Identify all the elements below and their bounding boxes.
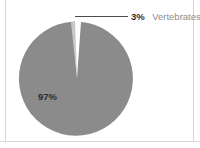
pie-slice-invertebrates[interactable] — [19, 22, 133, 136]
vertebrates-label-group: 3% Vertebrates — [131, 6, 200, 23]
pie-chart-canvas: 3% Vertebrates 97% Invertebrates — [0, 0, 200, 148]
invertebrates-category-label: Invertebrates — [64, 91, 120, 102]
pie-chart-figure: 3% Vertebrates 97% Invertebrates — [0, 0, 200, 148]
vertebrates-category-label: Vertebrates — [152, 11, 200, 22]
vertebrates-value-label: 3% — [131, 11, 145, 22]
invertebrates-value-label: 97% — [38, 91, 58, 102]
